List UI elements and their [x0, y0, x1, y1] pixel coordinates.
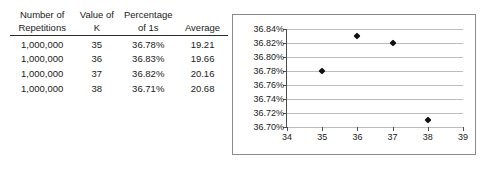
x-axis-tick — [287, 127, 288, 131]
scatter-chart-panel: 36.70%36.72%36.74%36.76%36.78%36.80%36.8… — [232, 14, 476, 155]
cell-percentage: 36.71% — [119, 81, 177, 96]
table-row: 1,000,0003836.71%20.68 — [10, 81, 228, 96]
table-head: Number of Value of Percentage Repetition… — [10, 9, 228, 36]
header-number-of: Number of — [10, 9, 74, 22]
cell-percentage: 36.83% — [119, 52, 177, 67]
data-point-marker — [319, 67, 326, 74]
gridline — [287, 71, 463, 72]
data-point-marker — [424, 116, 431, 123]
x-axis-tick — [393, 127, 394, 131]
table-row: 1,000,0003536.78%19.21 — [10, 36, 228, 52]
results-table: Number of Value of Percentage Repetition… — [10, 9, 228, 96]
gridline — [287, 43, 463, 44]
cell-k: 35 — [74, 36, 119, 52]
cell-repetitions: 1,000,000 — [10, 67, 74, 82]
cell-percentage: 36.82% — [119, 67, 177, 82]
x-axis-label: 39 — [458, 132, 468, 142]
x-axis-label: 38 — [423, 132, 433, 142]
x-axis-tick — [322, 127, 323, 131]
table-header-row-bottom: Repetitions K of 1s Average — [10, 22, 228, 36]
plot-wrap: 36.70%36.72%36.74%36.76%36.78%36.80%36.8… — [233, 15, 475, 154]
x-axis-label: 35 — [317, 132, 327, 142]
cell-average: 19.66 — [177, 52, 228, 67]
header-average: Average — [177, 22, 228, 36]
gridline — [287, 127, 463, 128]
x-axis-tick — [428, 127, 429, 131]
y-axis-label: 36.80% — [253, 52, 284, 62]
header-of-1s: of 1s — [119, 22, 177, 36]
header-value-of: Value of — [74, 9, 119, 22]
gridline — [287, 113, 463, 114]
x-axis-tick — [357, 127, 358, 131]
table-body: 1,000,0003536.78%19.211,000,0003636.83%1… — [10, 36, 228, 96]
cell-percentage: 36.78% — [119, 36, 177, 52]
x-axis-label: 34 — [282, 132, 292, 142]
cell-repetitions: 1,000,000 — [10, 36, 74, 52]
cell-average: 20.68 — [177, 81, 228, 96]
table-header-row-top: Number of Value of Percentage — [10, 9, 228, 22]
gridline — [287, 57, 463, 58]
header-percentage: Percentage — [119, 9, 177, 22]
cell-repetitions: 1,000,000 — [10, 81, 74, 96]
header-blank — [177, 9, 228, 22]
gridline — [287, 29, 463, 30]
y-axis-label: 36.78% — [253, 66, 284, 76]
header-repetitions: Repetitions — [10, 22, 74, 36]
data-point-marker — [389, 39, 396, 46]
y-axis-label: 36.84% — [253, 24, 284, 34]
gridline — [287, 85, 463, 86]
cell-k: 38 — [74, 81, 119, 96]
cell-average: 20.16 — [177, 67, 228, 82]
table-row: 1,000,0003736.82%20.16 — [10, 67, 228, 82]
cell-repetitions: 1,000,000 — [10, 52, 74, 67]
header-k: K — [74, 22, 119, 36]
table-row: 1,000,0003636.83%19.66 — [10, 52, 228, 67]
cell-k: 37 — [74, 67, 119, 82]
data-point-marker — [354, 32, 361, 39]
gridline — [287, 99, 463, 100]
y-axis-label: 36.74% — [253, 94, 284, 104]
x-axis-label: 36 — [352, 132, 362, 142]
x-axis-tick — [463, 127, 464, 131]
cell-average: 19.21 — [177, 36, 228, 52]
y-axis-label: 36.82% — [253, 38, 284, 48]
cell-k: 36 — [74, 52, 119, 67]
y-axis-label: 36.72% — [253, 108, 284, 118]
y-axis-label: 36.76% — [253, 80, 284, 90]
y-axis-label: 36.70% — [253, 122, 284, 132]
x-axis-label: 37 — [388, 132, 398, 142]
plot-area: 36.70%36.72%36.74%36.76%36.78%36.80%36.8… — [287, 29, 463, 127]
